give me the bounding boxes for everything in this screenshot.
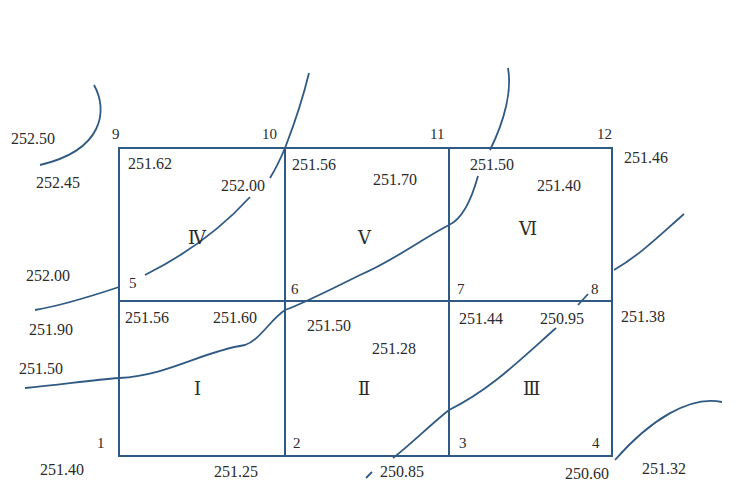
cell-label: Ⅵ bbox=[519, 221, 536, 237]
point-number: 9 bbox=[112, 126, 120, 142]
diagram-lines bbox=[0, 0, 754, 483]
point-number: 12 bbox=[597, 126, 612, 142]
point-number: 8 bbox=[591, 281, 599, 297]
elevation-value: 251.56 bbox=[125, 310, 169, 326]
elevation-value: 251.28 bbox=[372, 341, 416, 357]
cell-label: Ⅱ bbox=[358, 381, 369, 397]
cell-label: Ⅳ bbox=[188, 230, 205, 246]
elevation-value: 251.46 bbox=[624, 150, 668, 166]
point-number: 5 bbox=[129, 275, 137, 291]
contour-line bbox=[615, 401, 722, 460]
contour-label: 251.50 bbox=[19, 361, 63, 377]
elevation-value: 251.60 bbox=[213, 310, 257, 326]
contour-line bbox=[614, 214, 684, 270]
contour-label: 252.00 bbox=[26, 268, 70, 284]
contour-label: 252.50 bbox=[11, 131, 55, 147]
contour-label: 251.90 bbox=[29, 322, 73, 338]
point-number: 11 bbox=[430, 126, 444, 142]
grid-contour-diagram: 9 10 11 12 5 6 7 8 1 2 3 4 Ⅳ Ⅴ Ⅵ Ⅰ Ⅱ Ⅲ 2… bbox=[0, 0, 754, 483]
elevation-value: 251.62 bbox=[128, 156, 172, 172]
point-number: 4 bbox=[592, 435, 600, 451]
elevation-value: 251.50 bbox=[470, 157, 514, 173]
cell-label: Ⅴ bbox=[358, 230, 370, 246]
elevation-value: 251.50 bbox=[307, 318, 351, 334]
point-number: 2 bbox=[293, 435, 301, 451]
elevation-value: 251.40 bbox=[40, 462, 84, 478]
elevation-value: 252.00 bbox=[221, 178, 265, 194]
contour-line bbox=[490, 68, 509, 150]
elevation-value: 250.95 bbox=[540, 311, 584, 327]
contour-line bbox=[578, 294, 588, 305]
elevation-value: 251.56 bbox=[292, 157, 336, 173]
contour-label: 251.32 bbox=[642, 461, 686, 477]
point-number: 10 bbox=[262, 126, 277, 142]
point-number: 1 bbox=[97, 435, 105, 451]
elevation-value: 251.70 bbox=[373, 172, 417, 188]
contour-line bbox=[40, 85, 101, 165]
point-number: 3 bbox=[459, 435, 467, 451]
cell-label: Ⅰ bbox=[194, 381, 200, 397]
elevation-value: 251.25 bbox=[214, 464, 258, 480]
point-number: 7 bbox=[457, 281, 465, 297]
point-number: 6 bbox=[291, 281, 299, 297]
contour-line bbox=[35, 287, 119, 310]
elevation-value: 251.38 bbox=[621, 309, 665, 325]
cell-label: Ⅲ bbox=[523, 381, 539, 397]
elevation-value: 250.60 bbox=[565, 466, 609, 482]
contour-line bbox=[366, 472, 372, 478]
contour-label: 252.45 bbox=[36, 175, 80, 191]
elevation-value: 250.85 bbox=[380, 464, 424, 480]
elevation-value: 251.40 bbox=[537, 178, 581, 194]
elevation-value: 251.44 bbox=[459, 311, 503, 327]
